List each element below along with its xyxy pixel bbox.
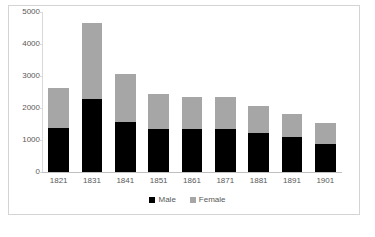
y-axis-tick-label: 4000 bbox=[8, 40, 40, 48]
x-axis-tick-label: 1871 bbox=[209, 176, 242, 186]
stacked-bar[interactable] bbox=[82, 23, 103, 172]
bar-segment-female[interactable] bbox=[148, 94, 169, 129]
bar-segment-male[interactable] bbox=[215, 129, 236, 172]
bar-segment-female[interactable] bbox=[282, 114, 303, 136]
female-swatch-icon bbox=[190, 197, 196, 203]
x-axis-tick-label: 1841 bbox=[109, 176, 142, 186]
bar-group[interactable] bbox=[115, 12, 136, 172]
chart-legend: MaleFemale bbox=[0, 196, 375, 204]
y-axis-tick-mark bbox=[39, 108, 42, 109]
y-axis-tick-label: 3000 bbox=[8, 72, 40, 80]
legend-item[interactable]: Male bbox=[149, 196, 175, 204]
y-axis-tick-mark bbox=[39, 12, 42, 13]
bar-group[interactable] bbox=[182, 12, 203, 172]
x-axis-tick-label: 1881 bbox=[242, 176, 275, 186]
y-axis-tick-label: 5000 bbox=[8, 8, 40, 16]
x-axis-tick-label: 1851 bbox=[142, 176, 175, 186]
bar-segment-male[interactable] bbox=[48, 128, 69, 172]
bar-segment-male[interactable] bbox=[282, 137, 303, 172]
bar-group[interactable] bbox=[82, 12, 103, 172]
x-axis-tick-label: 1821 bbox=[42, 176, 75, 186]
bar-segment-male[interactable] bbox=[82, 99, 103, 172]
y-axis-tick-mark bbox=[39, 76, 42, 77]
bar-segment-female[interactable] bbox=[315, 123, 336, 143]
legend-label: Male bbox=[158, 196, 175, 204]
bar-segment-female[interactable] bbox=[182, 97, 203, 129]
x-axis-labels: 182118311841185118611871188118911901 bbox=[42, 176, 342, 190]
bars-container bbox=[42, 12, 342, 172]
bar-segment-female[interactable] bbox=[115, 74, 136, 123]
stacked-bar[interactable] bbox=[248, 106, 269, 172]
y-axis-tick-label: 1000 bbox=[8, 136, 40, 144]
bar-group[interactable] bbox=[215, 12, 236, 172]
stacked-bar[interactable] bbox=[148, 94, 169, 172]
bar-group[interactable] bbox=[282, 12, 303, 172]
y-axis-tick-mark bbox=[39, 172, 42, 173]
bar-segment-male[interactable] bbox=[182, 129, 203, 172]
bar-group[interactable] bbox=[315, 12, 336, 172]
x-axis-tick-label: 1901 bbox=[309, 176, 342, 186]
chart-screenshot: 010002000300040005000 182118311841185118… bbox=[0, 0, 375, 237]
bar-segment-female[interactable] bbox=[248, 106, 269, 133]
bar-segment-female[interactable] bbox=[48, 88, 69, 128]
stacked-bar[interactable] bbox=[115, 74, 136, 172]
bar-segment-female[interactable] bbox=[82, 23, 103, 99]
x-axis-line bbox=[42, 172, 342, 173]
y-axis-tick-mark bbox=[39, 140, 42, 141]
x-axis-tick-label: 1861 bbox=[175, 176, 208, 186]
bar-group[interactable] bbox=[48, 12, 69, 172]
y-axis-tick-mark bbox=[39, 44, 42, 45]
x-axis-tick-label: 1831 bbox=[75, 176, 108, 186]
bar-segment-male[interactable] bbox=[115, 122, 136, 172]
legend-item[interactable]: Female bbox=[190, 196, 226, 204]
legend-label: Female bbox=[199, 196, 226, 204]
y-axis-tick-label: 2000 bbox=[8, 104, 40, 112]
stacked-bar[interactable] bbox=[48, 88, 69, 172]
stacked-bar[interactable] bbox=[182, 97, 203, 172]
bar-segment-male[interactable] bbox=[315, 144, 336, 172]
male-swatch-icon bbox=[149, 197, 155, 203]
stacked-bar[interactable] bbox=[315, 123, 336, 172]
bar-segment-male[interactable] bbox=[248, 133, 269, 172]
x-axis-tick-label: 1891 bbox=[275, 176, 308, 186]
y-axis-tick-label: 0 bbox=[8, 168, 40, 176]
bar-group[interactable] bbox=[248, 12, 269, 172]
bar-segment-female[interactable] bbox=[215, 97, 236, 129]
bar-segment-male[interactable] bbox=[148, 129, 169, 172]
stacked-bar[interactable] bbox=[215, 97, 236, 172]
bar-group[interactable] bbox=[148, 12, 169, 172]
stacked-bar[interactable] bbox=[282, 114, 303, 172]
